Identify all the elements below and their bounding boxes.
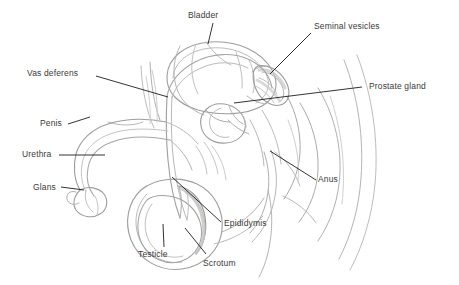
leader-line-prostate-gland xyxy=(234,87,362,103)
leader-line-scrotum xyxy=(185,228,206,254)
label-bladder: Bladder xyxy=(188,10,218,20)
anatomy-diagram-page: Bladder Seminal vesicles Vas deferens Pr… xyxy=(0,0,459,285)
label-urethra: Urethra xyxy=(22,149,51,159)
label-leader-lines xyxy=(0,0,459,285)
label-vas-deferens: Vas deferens xyxy=(27,68,78,78)
leader-line-penis xyxy=(68,117,90,124)
leader-line-anus xyxy=(270,151,316,180)
leader-line-testicle xyxy=(163,224,164,247)
label-seminal-vesicles: Seminal vesicles xyxy=(314,21,380,31)
label-prostate-gland: Prostate gland xyxy=(369,81,426,91)
leader-line-glans xyxy=(61,187,84,190)
leader-line-seminal-vesicles xyxy=(270,33,311,74)
label-testicle: Testicle xyxy=(138,249,168,259)
leader-line-bladder xyxy=(208,23,213,44)
leader-line-vas-deferens xyxy=(96,76,168,97)
label-anus: Anus xyxy=(318,174,338,184)
leader-line-epididymis xyxy=(172,177,221,222)
label-penis: Penis xyxy=(40,118,62,128)
label-glans: Glans xyxy=(33,182,56,192)
label-scrotum: Scrotum xyxy=(203,258,236,268)
label-epididymis: Epididymis xyxy=(224,218,267,228)
